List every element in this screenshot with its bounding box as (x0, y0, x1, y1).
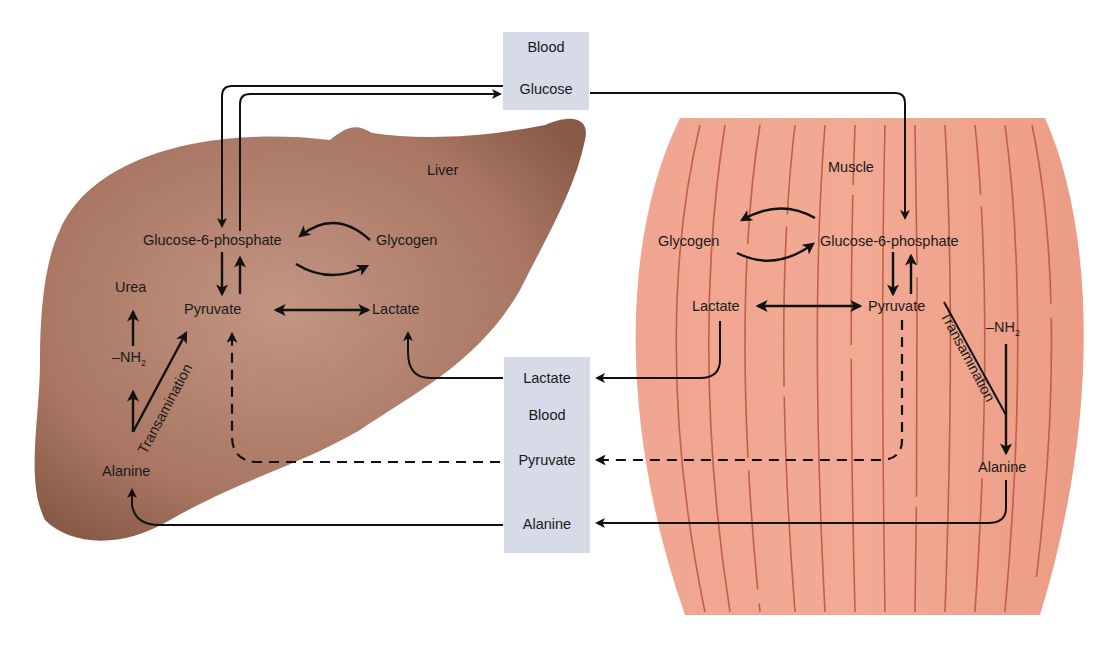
muscle-glycogen-label: Glycogen (658, 233, 719, 249)
liver-urea-label: Urea (115, 279, 147, 295)
blood-alanine-label: Alanine (523, 516, 571, 532)
blood-bottom-title: Blood (528, 407, 565, 423)
muscle-lactate-label: Lactate (692, 298, 740, 314)
blood-top-title: Blood (527, 39, 564, 55)
muscle-shape (636, 118, 1084, 615)
blood-glucose-label: Glucose (519, 81, 572, 97)
liver-pyruvate-label: Pyruvate (184, 301, 241, 317)
muscle-g6p-label: Glucose-6-phosphate (820, 233, 959, 249)
blood-lactate-label: Lactate (523, 370, 571, 386)
liver-title: Liver (427, 162, 459, 178)
muscle-pyruvate-label: Pyruvate (868, 298, 925, 314)
liver-glycogen-label: Glycogen (376, 232, 437, 248)
liver-g6p-label: Glucose-6-phosphate (143, 232, 282, 248)
liver-lactate-label: Lactate (372, 301, 420, 317)
blood-pyruvate-label: Pyruvate (518, 452, 575, 468)
cori-cycle-diagram: Blood Glucose Lactate Blood Pyruvate Ala… (0, 0, 1111, 647)
liver-alanine-label: Alanine (102, 463, 150, 479)
muscle-title: Muscle (828, 159, 874, 175)
muscle-alanine-label: Alanine (978, 459, 1026, 475)
